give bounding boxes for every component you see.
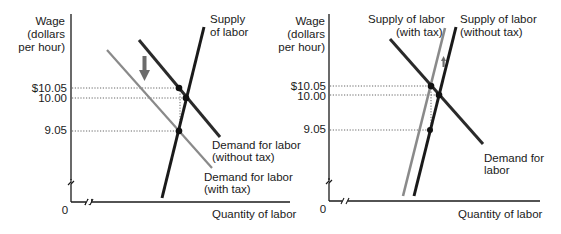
left-point-1005	[176, 85, 183, 92]
right-tick-905: 9.05	[304, 123, 326, 135]
left-shift-arrow-down-icon	[139, 70, 150, 81]
left-supply-label-line2: of labor	[210, 26, 249, 38]
left-demand-no-tax-label-line1: Demand for labor	[212, 139, 301, 151]
right-ylabel-line2: (dollars	[287, 28, 325, 40]
left-demand-tax-label-line2: (with tax)	[204, 183, 251, 195]
right-ylabel-line1: Wage	[295, 15, 325, 27]
left-xlabel: Quantity of labor	[212, 208, 297, 220]
left-tick-1000: 10.00	[38, 92, 67, 104]
right-panel: Wage (dollars per hour) 0 Quantity of la…	[278, 13, 544, 220]
right-xlabel: Quantity of labor	[458, 208, 543, 220]
left-ylabel-line1: Wage	[35, 15, 65, 27]
right-supply-with-tax-line	[403, 28, 445, 196]
right-origin-label: 0	[320, 203, 326, 215]
left-ylabel-line2: (dollars	[27, 28, 65, 40]
tax-incidence-diagrams: Wage (dollars per hour) 0 Quantity of la…	[0, 0, 561, 234]
right-shift-arrow-up-icon	[441, 56, 446, 61]
right-ylabel-line3: per hour)	[278, 41, 325, 53]
right-supply-no-tax-label-line1: Supply of labor	[460, 13, 537, 25]
left-demand-no-tax-label-line2: (without tax)	[212, 151, 275, 163]
right-demand-label-line2: labor	[484, 164, 510, 176]
left-supply-label-line1: Supply	[210, 13, 245, 25]
left-point-905	[176, 128, 183, 135]
right-supply-without-tax-line	[414, 27, 456, 196]
right-point-1005	[428, 83, 435, 90]
left-shift-arrow-shaft	[143, 56, 147, 72]
left-point-1000	[183, 95, 190, 102]
right-demand-label-line1: Demand for	[484, 152, 544, 164]
left-demand-tax-label-line1: Demand for labor	[204, 171, 293, 183]
right-demand-line	[390, 39, 483, 144]
left-ylabel-line3: per hour)	[18, 41, 65, 53]
left-panel: Wage (dollars per hour) 0 Quantity of la…	[18, 13, 301, 220]
right-supply-tax-label-line1: Supply of labor	[368, 13, 445, 25]
right-point-905	[427, 127, 433, 133]
right-tick-1000: 10.00	[297, 90, 326, 102]
left-tick-905: 9.05	[45, 124, 67, 136]
right-point-1000	[436, 92, 443, 99]
right-supply-tax-label-line2: (with tax)	[396, 26, 443, 38]
right-supply-no-tax-label-line2: (without tax)	[460, 26, 523, 38]
left-origin-label: 0	[62, 204, 68, 216]
